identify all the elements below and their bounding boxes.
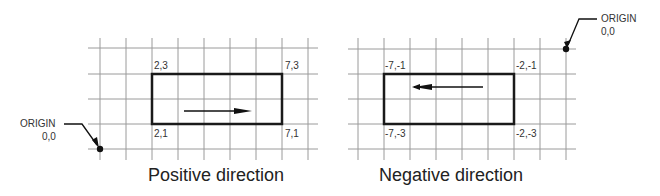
coordinate-diagrams: 2,3 7,3 2,1 7,1 ORIGIN 0,0 Positive dire…: [0, 0, 660, 196]
negative-grid: [348, 38, 576, 160]
corner-label-top-right: -2,-1: [516, 60, 537, 71]
origin-label: ORIGIN: [601, 13, 637, 24]
origin-leader: [563, 19, 597, 52]
positive-caption: Positive direction: [148, 165, 284, 185]
corner-label-top-left: -7,-1: [385, 60, 406, 71]
origin-coords: 0,0: [42, 131, 56, 142]
arrow-left-icon: [412, 84, 483, 90]
corner-label-top-right: 7,3: [285, 60, 299, 71]
corner-label-bottom-left: -7,-3: [385, 128, 406, 139]
negative-caption: Negative direction: [379, 165, 523, 185]
negative-diagram: -7,-1 -2,-1 -7,-3 -2,-3 ORIGIN 0,0 Negat…: [348, 13, 637, 185]
origin-label: ORIGIN: [20, 118, 56, 129]
positive-diagram: 2,3 7,3 2,1 7,1 ORIGIN 0,0 Positive dire…: [20, 38, 318, 185]
origin-coords: 0,0: [601, 26, 615, 37]
origin-dot: [97, 146, 103, 152]
corner-label-top-left: 2,3: [154, 60, 168, 71]
corner-label-bottom-left: 2,1: [154, 128, 168, 139]
arrow-right-icon: [184, 108, 252, 114]
positive-grid: [88, 38, 318, 160]
origin-dot: [563, 46, 569, 52]
corner-label-bottom-right: 7,1: [285, 128, 299, 139]
origin-leader: [64, 124, 103, 152]
corner-label-bottom-right: -2,-3: [516, 128, 537, 139]
